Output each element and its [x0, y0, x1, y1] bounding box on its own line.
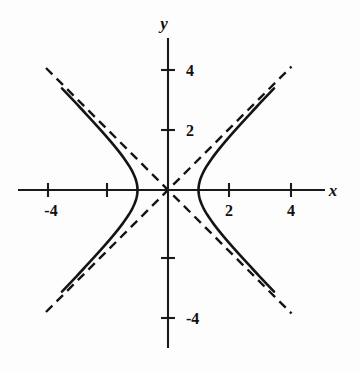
hyperbola-figure: -424 42-4 x y [0, 0, 360, 371]
y-axis-label: y [158, 14, 168, 33]
x-axis-label: x [328, 181, 338, 200]
y-tick-label: 4 [186, 62, 194, 79]
x-tick-label: -4 [44, 202, 57, 219]
y-tick-labels-group: 42-4 [186, 62, 199, 327]
y-tick-label: -4 [186, 310, 199, 327]
y-tick-label: 2 [186, 122, 194, 139]
x-tick-labels-group: -424 [44, 202, 295, 219]
hyperbola-plot-svg: -424 42-4 x y [0, 0, 360, 371]
x-tick-label: 4 [287, 202, 295, 219]
axes-group [18, 38, 325, 348]
x-tick-label: 2 [225, 202, 233, 219]
